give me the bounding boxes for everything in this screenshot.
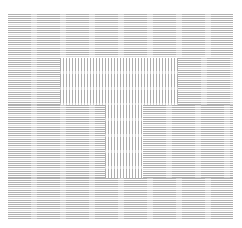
- table-block-upper[interactable]: [60, 58, 178, 105]
- document-page: [0, 0, 242, 228]
- left-text-column-upper[interactable]: [8, 58, 60, 105]
- table-block-center[interactable]: [105, 105, 143, 178]
- right-text-column-middle[interactable]: [143, 105, 233, 178]
- right-text-column-upper[interactable]: [178, 58, 233, 105]
- header-text-band[interactable]: [8, 14, 233, 58]
- left-text-column-middle[interactable]: [8, 105, 105, 178]
- footer-text-band[interactable]: [8, 178, 233, 219]
